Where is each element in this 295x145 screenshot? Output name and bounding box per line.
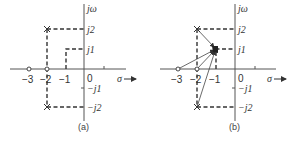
zero-o-icon bbox=[45, 67, 49, 71]
vector-zero-minus-2 bbox=[197, 51, 214, 69]
dash-test-point bbox=[66, 49, 84, 69]
tick-label-minus-j1: −j1 bbox=[87, 83, 102, 94]
vector-zero-minus-3 bbox=[178, 50, 214, 69]
tick-label-origin: 0 bbox=[87, 73, 93, 84]
dash-test-point bbox=[216, 49, 235, 69]
tick-label-minus-2: −2 bbox=[40, 74, 52, 85]
real-axis-label: σ bbox=[267, 73, 273, 84]
tick-label-minus-j2: −j2 bbox=[87, 102, 102, 113]
panel-caption-b: (b) bbox=[229, 122, 240, 132]
zero-o-icon bbox=[195, 67, 199, 71]
tick-label-j2: j2 bbox=[85, 24, 95, 35]
imag-axis-label: jω bbox=[85, 3, 97, 14]
tick-label-minus-2: −2 bbox=[190, 74, 202, 85]
tick-label-minus-1: −1 bbox=[209, 74, 221, 85]
tick-label-minus-1: −1 bbox=[59, 74, 71, 85]
tick-label-j2: j2 bbox=[236, 24, 246, 35]
zero-o-icon bbox=[27, 67, 31, 71]
panel-b: jω j2 j1 −j1 −j2 −3 −2 −1 0 σ (b) bbox=[160, 3, 286, 132]
tick-label-minus-3: −3 bbox=[171, 74, 183, 85]
tick-label-j1: j1 bbox=[85, 44, 95, 55]
tick-label-origin: 0 bbox=[238, 73, 244, 84]
pole-zero-diagram: jω j2 j1 −j1 −j2 −3 −2 −1 0 σ (a) bbox=[0, 0, 295, 145]
real-axis-label: σ bbox=[117, 73, 123, 84]
tick-label-minus-j1: −j1 bbox=[238, 83, 253, 94]
tick-label-minus-j2: −j2 bbox=[238, 102, 253, 113]
panel-caption-a: (a) bbox=[78, 122, 89, 132]
imag-axis-label: jω bbox=[236, 3, 248, 14]
zero-o-icon bbox=[176, 67, 180, 71]
tick-label-minus-3: −3 bbox=[22, 74, 34, 85]
panel-a: jω j2 j1 −j1 −j2 −3 −2 −1 0 σ (a) bbox=[10, 3, 136, 132]
tick-label-j1: j1 bbox=[236, 44, 246, 55]
